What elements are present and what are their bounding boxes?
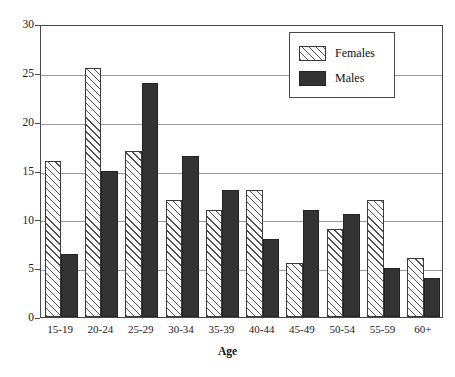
x-axis: 15-1920-2425-2930-3435-3940-4445-4950-54… (40, 323, 443, 339)
y-tick-label: 0 (8, 312, 34, 324)
y-tick-label: 30 (8, 19, 34, 31)
bar-males-60+ (424, 278, 441, 317)
bar-females-25-29 (125, 151, 142, 317)
legend-label-females: Females (335, 47, 375, 59)
bar-males-30-34 (182, 156, 199, 317)
x-tick-label-30-34: 30-34 (161, 323, 201, 336)
legend-entry-females: Females (299, 44, 375, 62)
y-tick-label: 20 (8, 117, 34, 129)
bar-females-15-19 (45, 161, 62, 317)
y-tick-label: 5 (8, 263, 34, 275)
bar-males-20-24 (101, 171, 118, 318)
x-tick-label-45-49: 45-49 (282, 323, 322, 336)
x-tick-label-50-54: 50-54 (322, 323, 362, 336)
bar-females-55-59 (367, 200, 384, 317)
y-tick-label: 10 (8, 215, 34, 227)
x-tick-label-55-59: 55-59 (362, 323, 402, 336)
legend-swatch-males-icon (299, 71, 326, 86)
bar-males-35-39 (222, 190, 239, 317)
bar-males-55-59 (384, 268, 401, 317)
bar-males-25-29 (142, 83, 159, 317)
y-tick-mark (35, 318, 40, 319)
x-tick-label-40-44: 40-44 (242, 323, 282, 336)
bar-males-15-19 (61, 254, 78, 317)
legend-swatch-females-icon (299, 46, 326, 61)
bar-males-50-54 (343, 214, 360, 317)
x-tick-label-20-24: 20-24 (80, 323, 120, 336)
x-tick-label-35-39: 35-39 (201, 323, 241, 336)
x-tick-label-25-29: 25-29 (121, 323, 161, 336)
bar-males-40-44 (263, 239, 280, 317)
bar-females-35-39 (206, 210, 223, 317)
legend: Females Males (289, 32, 395, 98)
bar-females-50-54 (327, 229, 344, 317)
x-tick-label-60+: 60+ (403, 323, 443, 336)
legend-label-males: Males (335, 72, 364, 84)
bar-chart: 30 25 20 15 10 5 0 15-1920-2425-2930-343… (0, 0, 455, 377)
y-tick-label: 15 (8, 166, 34, 178)
x-tick-label-15-19: 15-19 (40, 323, 80, 336)
bar-males-45-49 (303, 210, 320, 317)
bar-females-40-44 (246, 190, 263, 317)
bar-females-60+ (407, 258, 424, 317)
bar-females-30-34 (166, 200, 183, 317)
legend-entry-males: Males (299, 69, 364, 87)
x-axis-title: Age (0, 345, 455, 357)
y-tick-label: 25 (8, 68, 34, 80)
bar-females-45-49 (286, 263, 303, 317)
bar-females-20-24 (85, 68, 102, 317)
